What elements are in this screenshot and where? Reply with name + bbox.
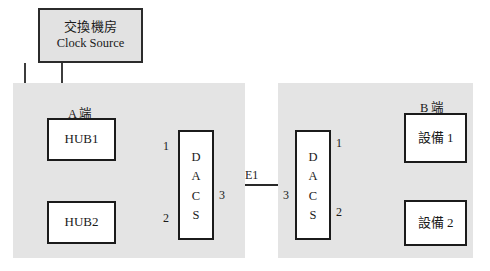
dacs-left-letter-c: C — [192, 190, 200, 203]
dacs-right-letter-d: D — [308, 151, 317, 164]
panel-b-label: B 端 — [420, 97, 444, 116]
edge-label-trunk-e1: E1 — [245, 168, 258, 183]
dacs-left-letter-d: D — [191, 151, 200, 164]
device1-box[interactable]: 設備 1 — [404, 113, 467, 163]
hub2-box[interactable]: HUB2 — [47, 201, 116, 244]
dacs-left-letter-s: S — [193, 209, 200, 222]
device2-label: 設備 2 — [418, 216, 454, 231]
hub2-label: HUB2 — [65, 215, 99, 230]
edge-label-right-port-1: 1 — [336, 136, 342, 151]
dacs-right-letter-a: A — [308, 170, 317, 183]
dacs-left-box[interactable]: D A C S — [178, 130, 214, 240]
edge-label-left-port-2: 2 — [163, 211, 169, 226]
hub1-box[interactable]: HUB1 — [47, 118, 116, 161]
edge-label-right-port-2: 2 — [336, 205, 342, 220]
dacs-right-letter-s: S — [310, 209, 317, 222]
dacs-right-letter-c: C — [309, 190, 317, 203]
device2-box[interactable]: 設備 2 — [404, 200, 467, 246]
clock-source-label-en: Clock Source — [57, 36, 125, 50]
edge-label-left-port-1: 1 — [163, 139, 169, 154]
edge-label-left-port-3: 3 — [219, 188, 225, 203]
dacs-right-box[interactable]: D A C S — [295, 130, 331, 240]
clock-source-box[interactable]: 交換機房 Clock Source — [38, 8, 143, 63]
edge-label-right-port-3: 3 — [283, 188, 289, 203]
hub1-label: HUB1 — [65, 132, 99, 147]
clock-source-label-cn: 交換機房 — [64, 20, 118, 35]
dacs-left-letter-a: A — [191, 170, 200, 183]
device1-label: 設備 1 — [418, 131, 454, 146]
panel-a-label: A 端 — [68, 103, 92, 122]
diagram-canvas: 交換機房 Clock Source A 端 B 端 HUB1 HUB2 D A … — [0, 0, 490, 271]
